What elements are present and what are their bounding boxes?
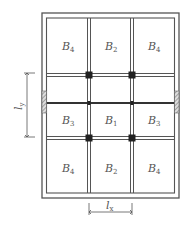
- columns: [86, 72, 136, 142]
- slab-layout-diagram: B4 B2 B4 B3 B1 B3 B4 B2 B4 ly lx: [0, 0, 194, 229]
- panel-label-r2c0: B4: [61, 162, 75, 176]
- panel-labels: B4 B2 B4 B3 B1 B3 B4 B2 B4: [61, 40, 161, 176]
- lx-label: lx: [106, 199, 114, 213]
- panel-label-r2c1: B2: [104, 162, 118, 176]
- panel-label-r0c1: B2: [104, 40, 118, 54]
- panel-label-r0c0: B4: [61, 40, 75, 54]
- panel-label-r2c2: B4: [147, 162, 161, 176]
- panel-label-r1c1: B1: [104, 114, 118, 128]
- panel-label-r0c2: B4: [147, 40, 161, 54]
- left-wall-support: [42, 91, 47, 113]
- panel-label-r1c2: B3: [147, 114, 161, 128]
- panel-label-r1c0: B3: [61, 114, 75, 128]
- ly-label: ly: [12, 102, 26, 110]
- horizontal-beams: [47, 74, 175, 140]
- right-wall-support: [175, 91, 180, 113]
